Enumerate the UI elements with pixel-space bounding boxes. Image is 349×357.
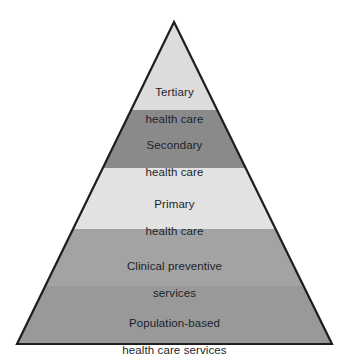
pyramid-band-secondary: [0, 110, 349, 169]
pyramid-band-primary: [0, 168, 349, 230]
pyramid-band-population-based-health-care-services: [0, 286, 349, 345]
pyramid-band-tertiary: [0, 22, 349, 111]
pyramid-band-clinical-preventive-services: [0, 229, 349, 287]
pyramid-diagram: [0, 0, 349, 357]
health-care-pyramid-figure: Tertiary health care Secondary health ca…: [0, 0, 349, 357]
